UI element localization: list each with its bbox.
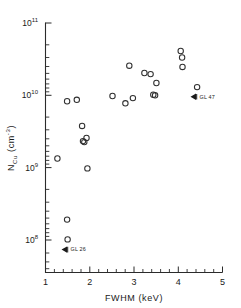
data-point bbox=[154, 80, 159, 85]
data-point bbox=[65, 237, 70, 242]
y-axis-title: NCu (cm-3) bbox=[5, 125, 18, 171]
gl-26-label: GL 26 bbox=[71, 246, 86, 252]
data-point bbox=[79, 123, 84, 128]
data-point bbox=[123, 101, 128, 106]
gl-47-annotation: GL 47 bbox=[191, 94, 215, 100]
y-tick-label: 1011 bbox=[22, 17, 38, 28]
x-tick-label: 2 bbox=[87, 277, 92, 287]
y-tick-label: 109 bbox=[25, 162, 38, 173]
data-point bbox=[64, 217, 69, 222]
gl-47-label: GL 47 bbox=[200, 94, 215, 100]
x-tick-label: 5 bbox=[220, 277, 225, 287]
x-tick-label: 3 bbox=[131, 277, 136, 287]
data-point bbox=[85, 166, 90, 171]
x-axis-title: FWHM (keV) bbox=[105, 293, 163, 303]
x-tick-labels: 1 2 3 4 5 bbox=[43, 277, 225, 287]
y-axis-major-ticks bbox=[46, 23, 52, 240]
y-axis-minor-ticks bbox=[46, 45, 50, 269]
x-tick-label: 4 bbox=[176, 277, 181, 287]
axis-frame bbox=[46, 23, 223, 273]
data-point bbox=[148, 71, 153, 76]
gl-26-annotation: GL 26 bbox=[62, 246, 86, 252]
arrow-icon bbox=[62, 246, 69, 252]
data-point bbox=[110, 93, 115, 98]
data-point bbox=[127, 63, 132, 68]
y-tick-label: 108 bbox=[25, 234, 38, 245]
data-point bbox=[178, 48, 183, 53]
arrow-icon bbox=[191, 94, 198, 100]
y-tick-label: 1010 bbox=[22, 89, 39, 100]
data-points bbox=[55, 48, 200, 242]
data-point bbox=[194, 84, 199, 89]
data-point bbox=[64, 99, 69, 104]
data-point bbox=[179, 55, 184, 60]
data-point bbox=[130, 95, 135, 100]
data-point bbox=[142, 70, 147, 75]
scatter-plot: 1 2 3 4 5 1011 1010 109 108 FWHM (keV) N… bbox=[0, 0, 241, 308]
data-point bbox=[74, 97, 79, 102]
figure-canvas: 1 2 3 4 5 1011 1010 109 108 FWHM (keV) N… bbox=[0, 0, 241, 308]
data-point bbox=[180, 64, 185, 69]
y-tick-labels: 1011 1010 109 108 bbox=[22, 17, 39, 245]
x-tick-label: 1 bbox=[43, 277, 48, 287]
data-point bbox=[55, 156, 60, 161]
